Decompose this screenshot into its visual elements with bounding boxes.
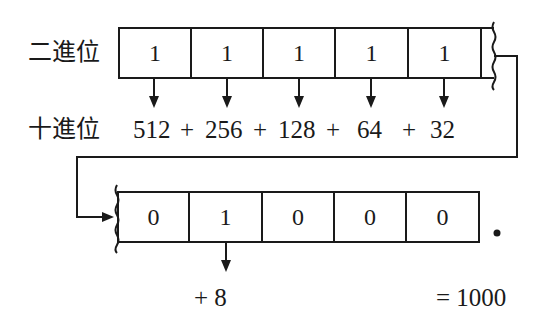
plus-sign: +: [180, 117, 194, 142]
radix-point: [494, 230, 501, 237]
top-bit-cell: 1: [191, 41, 263, 65]
top-bit-cell: 1: [263, 41, 335, 65]
term-256: 256: [205, 117, 243, 142]
bottom-bit-cell: 0: [334, 205, 406, 229]
binary-label: 二進位: [28, 40, 100, 64]
arrow-down-icon: [366, 96, 376, 108]
top-bit-cell: 1: [408, 41, 481, 65]
term-128: 128: [278, 117, 316, 142]
plus-sign: +: [253, 117, 267, 142]
arrow-down-icon: [294, 96, 304, 108]
arrow-down-icon: [149, 96, 159, 108]
top-bit-cell: 1: [335, 41, 408, 65]
bottom-bit-cell: 1: [189, 205, 262, 229]
term-64: 64: [357, 117, 382, 142]
term-32: 32: [430, 117, 455, 142]
arrow-down-icon: [439, 96, 449, 108]
term-8: + 8: [194, 285, 227, 310]
arrow-down-icon: [222, 96, 232, 108]
result-total: = 1000: [436, 285, 506, 310]
bottom-bit-cell: 0: [406, 205, 479, 229]
decimal-label: 十進位: [28, 117, 100, 141]
plus-sign: +: [326, 117, 340, 142]
arrow-right-icon: [102, 212, 114, 222]
arrow-down-icon: [221, 260, 231, 272]
bottom-bit-cell: 0: [262, 205, 334, 229]
bottom-bit-cell: 0: [118, 205, 189, 229]
plus-sign: +: [402, 117, 416, 142]
term-512: 512: [133, 117, 171, 142]
top-bit-cell: 1: [119, 41, 191, 65]
